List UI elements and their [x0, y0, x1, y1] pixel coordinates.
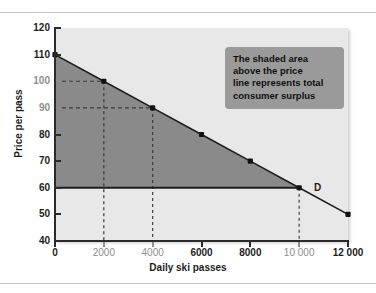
x-tick-mark [347, 242, 349, 247]
x-tick-mark [152, 242, 154, 247]
y-tick-label: 110 [16, 50, 50, 60]
chart-figure: 120110100908070605040 020004000600080001… [0, 0, 376, 293]
y-tick-label: 50 [16, 209, 50, 219]
annotation-line: consumer surplus [233, 90, 337, 102]
y-tick-label: 40 [16, 236, 50, 246]
annotation-line: The shaded area [233, 53, 337, 65]
y-axis-line [54, 27, 56, 242]
bottom-divider [0, 283, 376, 284]
y-tick-label: 60 [16, 183, 50, 193]
x-axis-line [54, 240, 349, 242]
x-tick-mark [103, 242, 105, 247]
top-divider [0, 12, 376, 13]
annotation-line: above the price [233, 65, 337, 77]
y-axis-title: Price per pass [13, 79, 24, 169]
annotation-callout: The shaded areaabove the priceline repre… [225, 47, 344, 109]
x-axis-title: Daily ski passes [0, 262, 376, 273]
x-tick-mark [298, 242, 300, 247]
x-tick-mark [201, 242, 203, 247]
demand-curve-label: D [314, 182, 321, 193]
x-tick-mark [54, 242, 56, 247]
x-tick-mark [249, 242, 251, 247]
x-tick-label: 12 000 [318, 247, 376, 258]
y-tick-label: 120 [16, 23, 50, 33]
annotation-line: line represents total [233, 77, 337, 89]
